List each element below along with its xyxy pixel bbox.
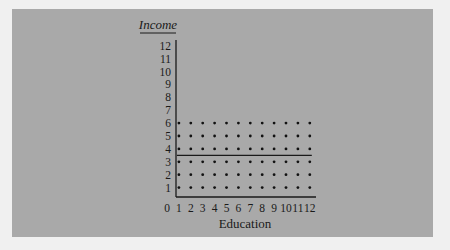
data-point: [273, 173, 276, 176]
data-point: [189, 160, 192, 163]
data-point: [237, 160, 240, 163]
data-point: [201, 122, 204, 125]
y-axis-label: Income: [138, 17, 177, 32]
y-tick-label: 7: [165, 104, 171, 116]
data-point: [308, 148, 311, 151]
data-point: [261, 160, 264, 163]
data-point: [261, 148, 264, 151]
x-tick-label: 3: [200, 202, 206, 214]
data-point: [297, 186, 300, 189]
data-point: [178, 122, 181, 125]
y-tick-label: 6: [165, 117, 171, 129]
data-point: [189, 148, 192, 151]
data-point: [178, 135, 181, 138]
x-tick-label: 9: [271, 202, 277, 214]
data-point: [297, 160, 300, 163]
scatter-chart: Income Education 12345678910111201234567…: [0, 0, 450, 250]
y-tick-label: 10: [160, 66, 172, 78]
data-point: [273, 186, 276, 189]
data-point: [261, 135, 264, 138]
data-point: [261, 186, 264, 189]
data-point: [178, 148, 181, 151]
y-tick-label: 11: [160, 53, 171, 65]
data-point: [189, 186, 192, 189]
data-point: [213, 173, 216, 176]
y-tick-label: 12: [160, 40, 172, 52]
data-point: [308, 186, 311, 189]
data-point: [285, 173, 288, 176]
data-point: [178, 173, 181, 176]
data-point: [297, 148, 300, 151]
data-point: [273, 148, 276, 151]
y-tick-label: 3: [165, 156, 171, 168]
data-point: [249, 122, 252, 125]
data-point: [261, 173, 264, 176]
x-tick-label: 7: [247, 202, 253, 214]
data-point: [308, 173, 311, 176]
y-tick-label: 8: [165, 91, 171, 103]
data-point: [213, 186, 216, 189]
data-point: [225, 160, 228, 163]
y-tick-label: 2: [165, 169, 171, 181]
data-point: [285, 186, 288, 189]
data-point: [201, 135, 204, 138]
data-point: [189, 173, 192, 176]
data-point: [213, 148, 216, 151]
x-tick-label: 4: [212, 202, 218, 214]
data-point: [201, 186, 204, 189]
data-point: [201, 173, 204, 176]
y-tick-label: 9: [165, 78, 171, 90]
data-point: [261, 122, 264, 125]
data-point: [249, 186, 252, 189]
data-point: [178, 160, 181, 163]
x-tick-label: 8: [259, 202, 265, 214]
x-tick-label: 11: [292, 202, 303, 214]
x-tick-label: 2: [188, 202, 194, 214]
x-tick-label: 0: [164, 202, 170, 214]
data-point: [237, 173, 240, 176]
data-point: [237, 186, 240, 189]
y-tick-label: 1: [165, 182, 171, 194]
data-point: [225, 173, 228, 176]
x-tick-label: 1: [176, 202, 182, 214]
data-point: [273, 122, 276, 125]
data-point: [249, 173, 252, 176]
y-tick-label: 4: [165, 143, 171, 155]
data-point: [189, 135, 192, 138]
data-point: [189, 122, 192, 125]
data-point: [178, 186, 181, 189]
data-point: [297, 173, 300, 176]
data-point: [213, 122, 216, 125]
data-point: [249, 148, 252, 151]
data-point: [249, 135, 252, 138]
y-tick-label: 5: [165, 130, 171, 142]
data-point: [237, 122, 240, 125]
data-point: [308, 160, 311, 163]
data-point: [273, 135, 276, 138]
data-point: [273, 160, 276, 163]
x-tick-label: 5: [224, 202, 230, 214]
data-point: [308, 135, 311, 138]
data-point: [213, 160, 216, 163]
data-point: [285, 148, 288, 151]
data-point: [225, 135, 228, 138]
data-point: [237, 135, 240, 138]
data-point: [225, 122, 228, 125]
x-axis-label: Education: [219, 216, 272, 231]
data-point: [201, 148, 204, 151]
x-tick-label: 6: [236, 202, 242, 214]
data-point: [297, 122, 300, 125]
data-point: [237, 148, 240, 151]
data-point: [285, 122, 288, 125]
data-point: [285, 135, 288, 138]
x-tick-label: 12: [304, 202, 316, 214]
x-tick-label: 10: [280, 202, 292, 214]
data-point: [297, 135, 300, 138]
data-point: [225, 148, 228, 151]
data-point: [201, 160, 204, 163]
data-point: [308, 122, 311, 125]
data-point: [225, 186, 228, 189]
data-point: [285, 160, 288, 163]
data-point: [213, 135, 216, 138]
data-point: [249, 160, 252, 163]
